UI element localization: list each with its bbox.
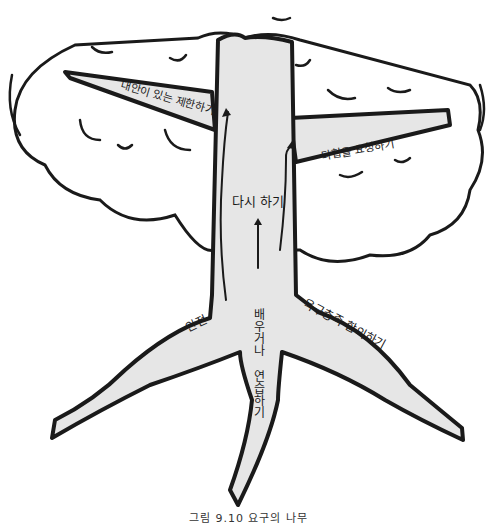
trunk-label: 다시 하기 bbox=[232, 194, 284, 209]
needs-tree-diagram: 대안이 있는 제한하기 타협을 요청하기 다시 하기 안전 욕구충족 합의하기 … bbox=[0, 0, 497, 528]
trunk bbox=[52, 34, 463, 505]
root-label-middle: 배우거나 연습하기 bbox=[251, 308, 265, 418]
tree-body bbox=[52, 34, 463, 505]
figure-caption: 그림 9.10 요구의 나무 bbox=[0, 509, 497, 525]
